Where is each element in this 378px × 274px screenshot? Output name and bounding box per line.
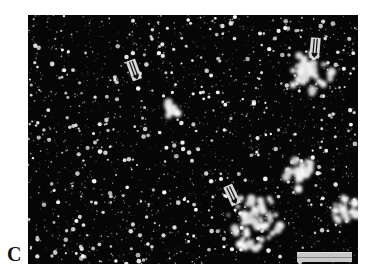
arrow-markers: [0, 0, 378, 274]
double-arrow-upper-right-icon: [310, 38, 321, 59]
double-arrow-lower-middle-icon: [224, 184, 241, 206]
scale-bar: [297, 252, 352, 262]
figure-panel: C: [0, 0, 378, 274]
double-arrow-upper-left-icon: [126, 59, 141, 81]
